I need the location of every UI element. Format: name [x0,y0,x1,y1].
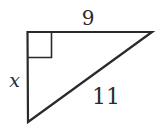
hypotenuse-label: 11 [92,84,120,109]
right-angle-marker [28,32,52,58]
right-triangle-diagram: 9 x 11 [0,0,162,132]
left-side-label: x [9,69,20,91]
top-side-label: 9 [82,6,95,30]
triangle-outline [28,32,153,122]
